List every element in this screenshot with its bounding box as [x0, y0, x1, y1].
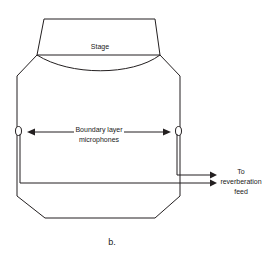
boundary-arrowhead-left [27, 129, 35, 136]
right-microphone-cable [177, 134, 210, 175]
reverberation-feed-label-line3: feed [234, 188, 248, 195]
stage-label: Stage [91, 43, 109, 51]
reverberation-feed-label-line2: reverberation [220, 178, 261, 185]
figure-container: Stage Boundary layer microphones To reve… [0, 0, 274, 253]
figure-caption: b. [108, 237, 116, 247]
boundary-microphones-label-line1: Boundary layer [75, 126, 123, 134]
reverberation-feed-arrowhead-upper [210, 172, 217, 179]
boundary-arrowhead-right [163, 129, 171, 136]
hall-plan-diagram: Stage Boundary layer microphones To reve… [0, 0, 274, 253]
left-boundary-microphone-icon [16, 127, 22, 136]
reverberation-feed-label-line1: To [237, 168, 245, 175]
right-boundary-microphone-icon [176, 127, 182, 136]
reverberation-feed-arrowhead-lower [210, 180, 217, 187]
boundary-microphones-label-line2: microphones [79, 136, 120, 144]
